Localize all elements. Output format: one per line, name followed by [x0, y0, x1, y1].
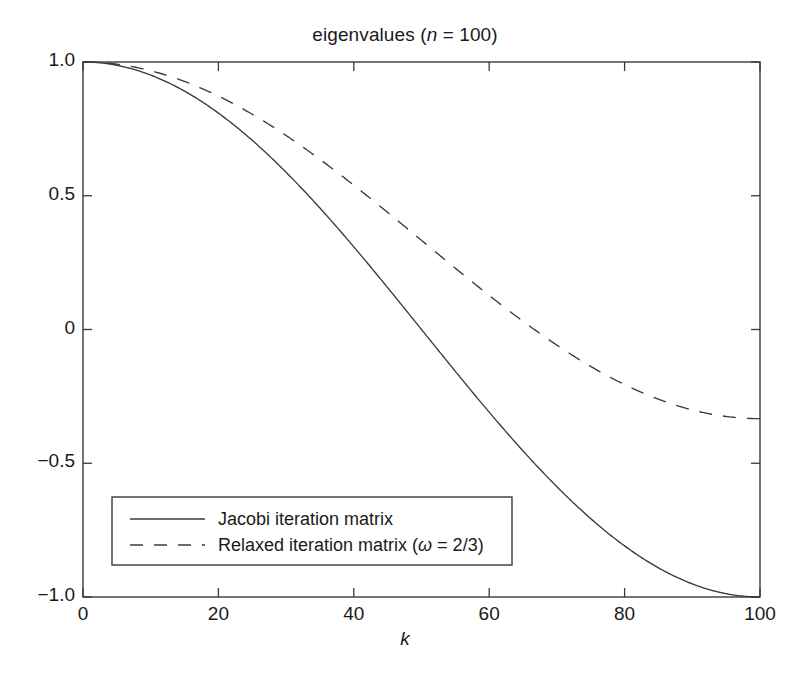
x-tick-label: 80 — [595, 603, 655, 625]
y-tick-label: 0 — [5, 317, 75, 339]
y-tick-label: 1.0 — [5, 49, 75, 71]
legend-relaxed-omega: ω — [418, 535, 432, 555]
x-tick-label: 20 — [188, 603, 248, 625]
legend-label-relaxed: Relaxed iteration matrix (ω = 2/3) — [218, 535, 484, 556]
y-tick-label: −0.5 — [5, 450, 75, 472]
legend-relaxed-suffix: = 2/3) — [432, 535, 484, 555]
chart-figure: eigenvalues (n = 100) Jacobi iteration m… — [0, 0, 810, 673]
y-tick-label: 0.5 — [5, 183, 75, 205]
series-line-1 — [83, 62, 760, 419]
x-tick-label: 0 — [53, 603, 113, 625]
legend-label-jacobi: Jacobi iteration matrix — [218, 509, 393, 530]
x-tick-label: 60 — [459, 603, 519, 625]
x-axis-label: k — [0, 628, 810, 650]
x-tick-label: 40 — [324, 603, 384, 625]
legend-relaxed-prefix: Relaxed iteration matrix ( — [218, 535, 418, 555]
plot-canvas — [0, 0, 810, 673]
x-tick-label: 100 — [730, 603, 790, 625]
